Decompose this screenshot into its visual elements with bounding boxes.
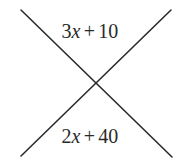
angle-top-coefficient: 3 (61, 20, 71, 42)
angle-label-bottom: 2x+40 (0, 126, 180, 146)
angle-label-top: 3x+10 (0, 21, 180, 41)
angle-top-operator: + (81, 20, 98, 42)
angle-top-variable: x (72, 20, 81, 42)
angle-bottom-constant: 40 (98, 125, 118, 147)
angle-bottom-operator: + (81, 125, 98, 147)
angle-bottom-variable: x (72, 125, 81, 147)
angle-bottom-coefficient: 2 (61, 125, 71, 147)
geometry-figure: 3x+10 2x+40 (0, 0, 180, 164)
angle-top-constant: 10 (98, 20, 118, 42)
